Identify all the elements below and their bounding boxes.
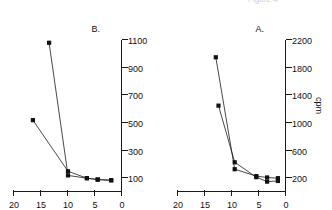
panel-b-series-2-marker bbox=[31, 118, 35, 122]
panel-a-series-1-line bbox=[216, 57, 278, 178]
panel-b-x-tick-label: 10 bbox=[58, 201, 78, 210]
panel-a-y-tick-label: 2200 bbox=[292, 37, 326, 45]
panel-a-x-tick-label: 15 bbox=[195, 201, 215, 210]
panel-a-x-tick-label: 20 bbox=[168, 201, 188, 210]
panel-a-series-1-marker bbox=[214, 55, 218, 59]
panel-b-x-tick-label: 20 bbox=[4, 201, 24, 210]
panel-b-series-2-marker bbox=[96, 177, 100, 181]
panel-b-x-tick-group: 05101520 bbox=[14, 196, 122, 208]
panel-a-y-axis-title: cpm bbox=[314, 97, 324, 114]
panel-b-y-tick-label: 300 bbox=[128, 148, 162, 156]
panel-a-x-tick bbox=[285, 190, 286, 196]
panel-a-series-2-marker bbox=[216, 104, 220, 108]
panel-b-y-tick-label: 1100 bbox=[128, 37, 162, 45]
panel-a-series-layer bbox=[178, 40, 286, 192]
figure-rotated-container: 2006001000140018002200 05101520 Hours of… bbox=[0, 0, 332, 210]
panel-b-series-1-line bbox=[49, 43, 111, 180]
panel-b-y-tick-label: 500 bbox=[128, 120, 162, 128]
panel-a-series-2-marker bbox=[265, 180, 269, 184]
panel-b-series-1-marker bbox=[66, 173, 70, 177]
panel-b-x-tick bbox=[67, 190, 68, 196]
panel-a-x-tick-label: 10 bbox=[222, 201, 242, 210]
panel-a-y-tick-label: 600 bbox=[292, 148, 326, 156]
panel-b-y-tick-label: 100 bbox=[128, 175, 162, 183]
panel-a-x-tick-label: 5 bbox=[249, 201, 269, 210]
panel-a-series-2-marker bbox=[276, 179, 280, 183]
panel-a-x-tick-label: 0 bbox=[276, 201, 296, 210]
panel-b-series-2-line bbox=[33, 120, 111, 180]
panel-a-x-tick bbox=[177, 190, 178, 196]
panel-a-series-2-line bbox=[219, 106, 278, 182]
panel-a-series-2-marker bbox=[254, 175, 258, 179]
panel-a-series-1-marker bbox=[233, 167, 237, 171]
panel-b: 1003005007009001100 05101520 Hours of de… bbox=[4, 0, 162, 210]
panel-a-y-tick-label: 1000 bbox=[292, 120, 326, 128]
panel-b-series-1-marker bbox=[47, 41, 51, 45]
panel-b-x-tick-label: 5 bbox=[85, 201, 105, 210]
panel-b-series-2-marker bbox=[109, 178, 113, 182]
panel-b-series-2-marker bbox=[66, 169, 70, 173]
panel-a-x-tick bbox=[204, 190, 205, 196]
panel-a-series-1-marker bbox=[265, 175, 269, 179]
panel-b-x-tick-label: 15 bbox=[31, 201, 51, 210]
panel-b-x-tick bbox=[121, 190, 122, 196]
panel-b-x-tick-label: 0 bbox=[112, 201, 132, 210]
panel-a-x-tick bbox=[258, 190, 259, 196]
panel-b-x-tick bbox=[13, 190, 14, 196]
panel-a-y-tick-label: 200 bbox=[292, 175, 326, 183]
panel-a-label: A. bbox=[255, 24, 264, 34]
panel-b-x-tick bbox=[94, 190, 95, 196]
panel-a-x-tick-group: 05101520 bbox=[178, 196, 286, 208]
panel-b-series-layer bbox=[14, 40, 122, 192]
panel-b-x-tick bbox=[40, 190, 41, 196]
panel-b-label: B. bbox=[91, 24, 100, 34]
panel-a-y-tick-label: 1800 bbox=[292, 65, 326, 73]
panel-b-series-2-marker bbox=[85, 176, 89, 180]
panel-b-y-tick-label: 700 bbox=[128, 92, 162, 100]
panel-b-y-tick-label: 900 bbox=[128, 65, 162, 73]
panel-a: 2006001000140018002200 05101520 Hours of… bbox=[168, 0, 326, 210]
panel-a-x-tick bbox=[231, 190, 232, 196]
panel-a-series-2-marker bbox=[233, 160, 237, 164]
figure-canvas: Figure 4 2006001000140018002200 05101520… bbox=[0, 0, 332, 210]
